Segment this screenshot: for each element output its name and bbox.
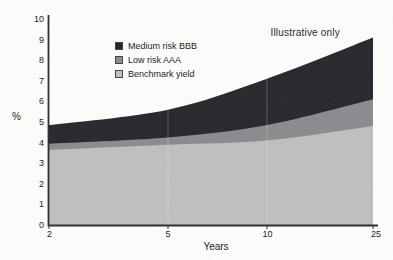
- y-tick-label: 4: [12, 138, 44, 148]
- legend-swatch-medium-risk-bbb: [115, 42, 123, 50]
- y-tick-label: 6: [12, 96, 44, 106]
- x-tick-label: 25: [371, 229, 381, 239]
- legend-item-benchmark-yield: Benchmark yield: [115, 67, 197, 81]
- legend-label: Benchmark yield: [128, 69, 195, 79]
- legend-swatch-low-risk-aaa: [115, 56, 123, 64]
- x-tick-label: 10: [262, 229, 272, 239]
- x-tick-label: 2: [47, 229, 52, 239]
- legend-label: Low risk AAA: [128, 55, 181, 65]
- legend: Medium risk BBB Low risk AAA Benchmark y…: [115, 39, 197, 81]
- y-tick-label: 3: [12, 158, 44, 168]
- chart-figure: Illustrative only % Years 109876543210 2…: [0, 0, 393, 260]
- legend-item-medium-risk-bbb: Medium risk BBB: [115, 39, 197, 53]
- y-tick-label: 2: [12, 179, 44, 189]
- y-tick-label: 9: [12, 35, 44, 45]
- legend-label: Medium risk BBB: [128, 41, 197, 51]
- y-tick-label: 0: [12, 220, 44, 230]
- legend-swatch-benchmark-yield: [115, 70, 123, 78]
- annotation-illustrative-only: Illustrative only: [0, 27, 340, 38]
- y-tick-label: 5: [12, 117, 44, 127]
- y-tick-label: 1: [12, 199, 44, 209]
- y-tick-label: 8: [12, 55, 44, 65]
- y-tick-label: 10: [12, 14, 44, 24]
- x-axis-label: Years: [196, 241, 236, 252]
- legend-item-low-risk-aaa: Low risk AAA: [115, 53, 197, 67]
- y-tick-label: 7: [12, 76, 44, 86]
- x-tick-label: 5: [165, 229, 170, 239]
